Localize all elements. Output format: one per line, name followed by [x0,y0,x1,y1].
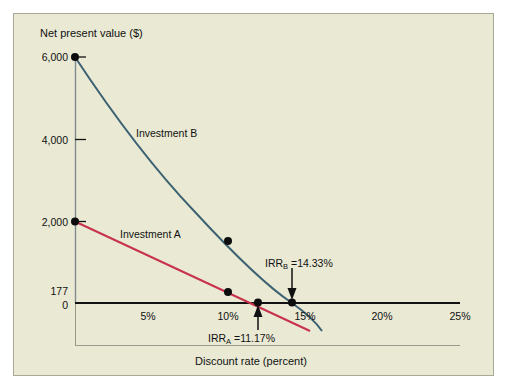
series-line-investment-a [75,222,310,332]
chart-plot-area [0,0,507,389]
x-tick-label-20: 20% [362,311,402,322]
x-tick-label-25: 25% [440,311,480,322]
irr-b-arrow-head [288,288,297,300]
irr-a-arrow-head [254,305,263,317]
y-tick-label-177: 177 [28,286,68,297]
irr-b-prefix: IRR [265,257,283,269]
irr-a-annotation: IRRA =11.17% [208,333,275,345]
series-line-investment-b [75,57,322,331]
x-axis-title: Discount rate (percent) [195,356,307,367]
marker-b-10pct [224,237,232,245]
y-tick-label-2000: 2,000 [28,217,68,228]
series-label-investment-b: Investment B [136,128,197,139]
irr-b-value: =14.33% [288,257,333,269]
irr-b-annotation: IRRB =14.33% [265,258,333,270]
irr-a-prefix: IRR [208,332,226,344]
marker-a-2000 [71,218,79,226]
x-tick-label-10: 10% [208,311,248,322]
marker-a-10pct [224,288,232,296]
x-tick-label-5: 5% [128,311,168,322]
y-tick-label-6000: 6,000 [28,52,68,63]
series-label-investment-a: Investment A [120,229,181,240]
x-tick-label-15: 15% [285,311,325,322]
chart-screenshot: Net present value ($) 6,000 4,000 2,000 … [0,0,507,389]
y-tick-label-0: 0 [28,300,68,311]
y-tick-label-4000: 4,000 [28,135,68,146]
irr-a-value: =11.17% [231,332,275,344]
marker-b-6000 [71,53,79,61]
y-axis-title: Net present value ($) [40,28,143,39]
